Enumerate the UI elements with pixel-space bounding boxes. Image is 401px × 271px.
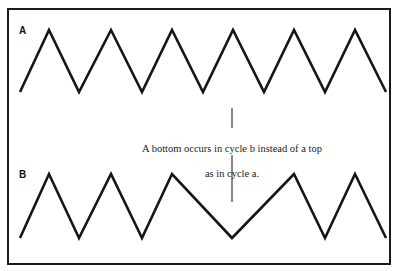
figure-root: A B A bottom occurs in cycle b instead o…: [0, 0, 401, 271]
annotation-caption: A bottom occurs in cycle b instead of a …: [86, 130, 378, 193]
annotation-line-2: as in cycle a.: [86, 168, 378, 181]
waveform-b-label: B: [19, 170, 26, 180]
annotation-line-1: A bottom occurs in cycle b instead of a …: [86, 143, 378, 156]
waveform-a-path: [20, 30, 386, 92]
waveform-a-label: A: [19, 26, 26, 36]
